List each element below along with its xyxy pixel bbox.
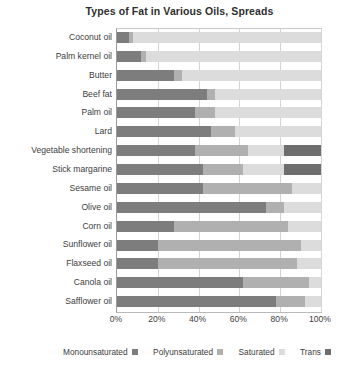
bar-segment[interactable] xyxy=(276,296,305,307)
bar-segment[interactable] xyxy=(248,145,285,156)
bar-segment[interactable] xyxy=(117,145,195,156)
y-axis-tick-label: Vegetable shortening xyxy=(0,145,112,156)
bar-segment[interactable] xyxy=(174,70,182,81)
y-axis-tick-label: Safflower oil xyxy=(0,296,112,307)
bar-segment[interactable] xyxy=(284,145,321,156)
bar-row xyxy=(117,237,321,256)
bar-segment[interactable] xyxy=(243,277,308,288)
bar-row xyxy=(117,48,321,67)
legend-label: Saturated xyxy=(239,347,275,357)
x-axis-labels: 0%20%40%60%80%100% xyxy=(0,314,359,328)
bar-segment[interactable] xyxy=(203,164,244,175)
x-axis-tick-label: 40% xyxy=(189,314,206,324)
x-axis-tick-label: 80% xyxy=(271,314,288,324)
y-axis-tick-label: Stick margarine xyxy=(0,164,112,175)
bar-segment[interactable] xyxy=(117,32,129,43)
bar-segment[interactable] xyxy=(117,107,195,118)
bar-row xyxy=(117,67,321,86)
bar-segment[interactable] xyxy=(305,296,321,307)
bar-segment[interactable] xyxy=(243,164,284,175)
bar-segment[interactable] xyxy=(235,126,321,137)
bar-segment[interactable] xyxy=(284,202,321,213)
bar-segment[interactable] xyxy=(195,107,215,118)
bar-row xyxy=(117,86,321,105)
bar-segment[interactable] xyxy=(301,240,321,251)
chart-title: Types of Fat in Various Oils, Spreads xyxy=(0,5,359,17)
y-axis-tick-label: Olive oil xyxy=(0,202,112,213)
bar-segment[interactable] xyxy=(182,70,321,81)
bar-row xyxy=(117,142,321,161)
legend-label: Polyunsaturated xyxy=(153,347,213,357)
x-axis-tick-label: 100% xyxy=(309,314,331,324)
bar-segment[interactable] xyxy=(158,258,297,269)
plot-area xyxy=(116,28,322,313)
bar-segment[interactable] xyxy=(133,32,321,43)
legend-item[interactable]: Polyunsaturated xyxy=(153,347,223,357)
bar-row xyxy=(117,161,321,180)
bar-segment[interactable] xyxy=(117,183,203,194)
bar-segment[interactable] xyxy=(174,221,288,232)
y-axis-tick-label: Sesame oil xyxy=(0,183,112,194)
bar-segment[interactable] xyxy=(117,51,141,62)
bar-segment[interactable] xyxy=(117,296,276,307)
bar-segment[interactable] xyxy=(117,89,207,100)
y-axis-tick-label: Palm kernel oil xyxy=(0,51,112,62)
bar-row xyxy=(117,123,321,142)
y-axis-tick-label: Beef fat xyxy=(0,89,112,100)
legend-swatch-icon xyxy=(279,349,285,355)
bar-segment[interactable] xyxy=(117,202,266,213)
legend-item[interactable]: Monounsaturated xyxy=(63,347,138,357)
x-axis-tick-label: 20% xyxy=(148,314,165,324)
legend-swatch-icon xyxy=(132,349,138,355)
bar-row xyxy=(117,180,321,199)
bar-segment[interactable] xyxy=(195,145,248,156)
bar-segment[interactable] xyxy=(207,89,215,100)
x-axis-tick-label: 0% xyxy=(110,314,122,324)
bar-segment[interactable] xyxy=(288,221,321,232)
bar-row xyxy=(117,255,321,274)
y-axis-tick-label: Flaxseed oil xyxy=(0,258,112,269)
legend-item[interactable]: Trans xyxy=(300,347,331,357)
chart-legend: MonounsaturatedPolyunsaturatedSaturatedT… xyxy=(63,344,331,360)
chart-container: Types of Fat in Various Oils, Spreads Co… xyxy=(0,0,359,381)
gridline xyxy=(321,29,322,312)
bar-segment[interactable] xyxy=(117,240,158,251)
y-axis-tick-label: Butter xyxy=(0,70,112,81)
bar-row xyxy=(117,199,321,218)
y-axis-labels: Coconut oilPalm kernel oilButterBeef fat… xyxy=(0,28,112,311)
bar-segment[interactable] xyxy=(215,107,321,118)
bar-segment[interactable] xyxy=(309,277,321,288)
legend-item[interactable]: Saturated xyxy=(239,347,285,357)
bar-segment[interactable] xyxy=(284,164,321,175)
legend-label: Monounsaturated xyxy=(63,347,128,357)
bar-segment[interactable] xyxy=(117,258,158,269)
bar-segment[interactable] xyxy=(117,277,243,288)
bar-segment[interactable] xyxy=(211,126,235,137)
bar-segment[interactable] xyxy=(117,221,174,232)
y-axis-tick-label: Corn oil xyxy=(0,221,112,232)
y-axis-tick-label: Canola oil xyxy=(0,277,112,288)
bar-segment[interactable] xyxy=(117,126,211,137)
bar-row xyxy=(117,104,321,123)
bar-segment[interactable] xyxy=(215,89,321,100)
bar-row xyxy=(117,218,321,237)
legend-swatch-icon xyxy=(217,349,223,355)
bar-row xyxy=(117,293,321,312)
y-axis-tick-label: Sunflower oil xyxy=(0,239,112,250)
x-axis-tick-label: 60% xyxy=(230,314,247,324)
bar-segment[interactable] xyxy=(266,202,284,213)
legend-swatch-icon xyxy=(325,349,331,355)
bar-segment[interactable] xyxy=(158,240,301,251)
y-axis-tick-label: Coconut oil xyxy=(0,32,112,43)
bar-segment[interactable] xyxy=(203,183,293,194)
bar-row xyxy=(117,29,321,48)
bar-rows xyxy=(117,29,321,312)
y-axis-tick-label: Palm oil xyxy=(0,107,112,118)
bar-segment[interactable] xyxy=(297,258,321,269)
bar-segment[interactable] xyxy=(146,51,321,62)
legend-label: Trans xyxy=(300,347,321,357)
bar-segment[interactable] xyxy=(117,70,174,81)
y-axis-tick-label: Lard xyxy=(0,126,112,137)
bar-segment[interactable] xyxy=(117,164,203,175)
bar-segment[interactable] xyxy=(292,183,321,194)
